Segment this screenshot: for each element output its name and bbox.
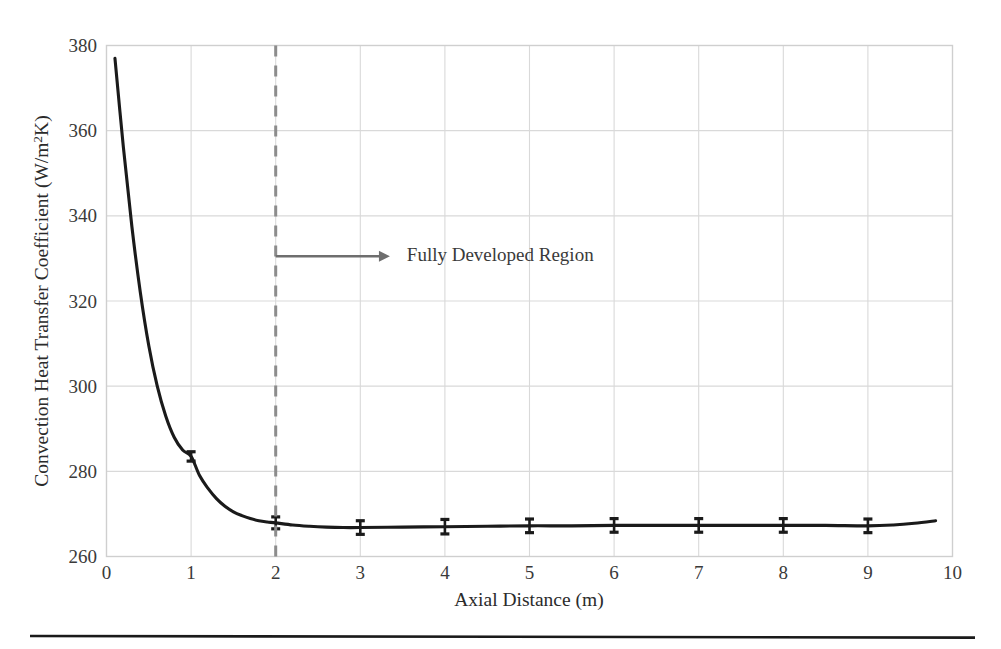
y-tick-label: 340	[69, 205, 98, 226]
fully-developed-region-label: Fully Developed Region	[407, 244, 594, 265]
convection-coefficient-chart: Fully Developed Region 012345678910 2602…	[0, 0, 1001, 649]
x-tick-label: 3	[356, 562, 366, 583]
y-tick-label: 320	[69, 291, 98, 312]
x-tick-label: 7	[694, 562, 704, 583]
x-tick-label: 1	[186, 562, 196, 583]
x-tick-label: 9	[863, 562, 873, 583]
x-tick-label: 8	[779, 562, 789, 583]
page-divider-rule	[30, 636, 975, 638]
chart-background	[0, 0, 1001, 649]
x-tick-label: 5	[525, 562, 535, 583]
y-tick-label: 380	[69, 35, 98, 56]
y-tick-label: 300	[69, 376, 98, 397]
y-axis-title: Convection Heat Transfer Coefficient (W/…	[30, 115, 53, 486]
figure-container: Fully Developed Region 012345678910 2602…	[0, 0, 1001, 649]
x-axis-title: Axial Distance (m)	[454, 589, 603, 611]
x-tick-label: 6	[609, 562, 619, 583]
x-tick-label: 4	[440, 562, 450, 583]
y-tick-label: 260	[69, 546, 98, 567]
x-tick-label: 0	[102, 562, 112, 583]
y-tick-label: 360	[69, 120, 98, 141]
x-tick-label: 2	[271, 562, 281, 583]
x-tick-label: 10	[943, 562, 962, 583]
y-tick-label: 280	[69, 461, 98, 482]
